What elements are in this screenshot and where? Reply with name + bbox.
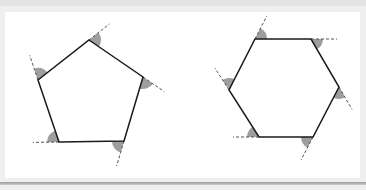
pentagon-outline [38, 40, 143, 142]
exterior-angle-wedge [255, 28, 267, 39]
pentagon-shape [30, 24, 165, 166]
hexagon-outline [229, 39, 339, 137]
hexagon-shape [215, 16, 352, 160]
extension-line [30, 55, 38, 80]
exterior-angle-wedge [301, 137, 313, 148]
polygon-diagram [0, 0, 366, 190]
